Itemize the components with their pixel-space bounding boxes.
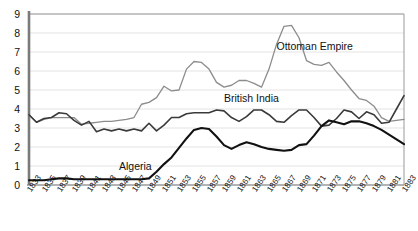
series-label-algeria: Algeria [119,161,152,172]
y-axis-tick-label: 4 [2,104,20,115]
series-label-ottoman-empire: Ottoman Empire [277,41,353,52]
y-axis-tick-label: 3 [2,123,20,134]
y-axis-tick-label: 1 [2,161,20,172]
y-axis-tick-label: 8 [2,28,20,39]
y-axis-tick-label: 0 [2,180,20,191]
series-line-algeria [29,120,404,180]
series-line-british-india [29,96,404,132]
y-axis-tick-label: 2 [2,142,20,153]
series-label-british-india: British India [224,93,279,104]
y-axis-tick-label: 5 [2,85,20,96]
y-axis-tick-label: 7 [2,47,20,58]
y-axis-tick-label: 6 [2,66,20,77]
y-axis-tick-label: 9 [2,9,20,20]
